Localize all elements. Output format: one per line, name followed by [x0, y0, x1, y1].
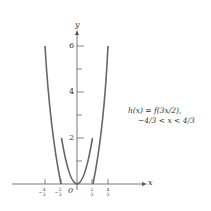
- y-ticks: [77, 46, 84, 161]
- curve-annotation: h(x) = f(3x/2), −4/3 < x < 4/3: [128, 106, 195, 126]
- y-tick-2: 2: [69, 133, 74, 142]
- origin-label: 0: [68, 186, 73, 195]
- annotation-line-1: h(x) = f(3x/2),: [128, 106, 195, 116]
- x-axis-arrow-icon: [142, 182, 147, 186]
- x-tick-neg-2-3: −23: [50, 188, 66, 197]
- y-tick-4: 4: [69, 87, 74, 96]
- outer-branch-right-curve: [93, 46, 108, 184]
- x-tick-4-3: 43: [104, 188, 112, 197]
- x-axis-label: x: [148, 178, 153, 187]
- outer-branch-left-curve: [45, 46, 61, 184]
- y-axis-arrow-icon: [75, 30, 79, 35]
- y-axis-label: y: [75, 20, 80, 29]
- y-tick-6: 6: [69, 41, 74, 50]
- x-tick-2-3: 23: [88, 188, 96, 197]
- annotation-line-2: −4/3 < x < 4/3: [128, 116, 195, 126]
- x-tick-neg-4-3: −43: [34, 188, 50, 197]
